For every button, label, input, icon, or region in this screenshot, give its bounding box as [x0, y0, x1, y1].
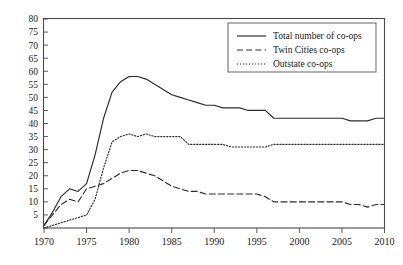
y-tick-label-60: 60 [29, 67, 39, 77]
y-tick-label-65: 65 [29, 54, 39, 64]
x-tick-label-1970: 1970 [34, 236, 54, 247]
y-tick-label-55: 55 [29, 80, 39, 90]
chart-figure: 5101520253035404550556065707580 19701975… [0, 0, 403, 265]
x-axis-tick-labels: 197019751980198519901995200020052010 [34, 236, 395, 247]
x-tick-label-1985: 1985 [162, 236, 182, 247]
y-tick-label-50: 50 [29, 93, 39, 103]
y-tick-label-15: 15 [29, 184, 39, 194]
y-tick-label-25: 25 [29, 158, 39, 168]
y-tick-label-70: 70 [29, 41, 39, 51]
y-tick-label-80: 80 [29, 14, 39, 24]
y-tick-label-30: 30 [29, 145, 39, 155]
y-tick-label-35: 35 [29, 132, 39, 142]
x-tick-label-2010: 2010 [375, 236, 395, 247]
x-tick-label-1975: 1975 [77, 236, 97, 247]
legend-label-1: Twin Cities co-ops [273, 45, 345, 55]
legend-label-2: Outstate co-ops [273, 59, 333, 69]
x-tick-label-1980: 1980 [119, 236, 139, 247]
line-chart: 5101520253035404550556065707580 19701975… [0, 0, 403, 265]
x-tick-label-2000: 2000 [289, 236, 309, 247]
y-tick-label-5: 5 [33, 210, 38, 220]
legend-label-0: Total number of co-ops [273, 31, 362, 41]
y-tick-label-75: 75 [29, 27, 39, 37]
chart-legend: Total number of co-opsTwin Cities co-ops… [228, 23, 376, 72]
x-tick-label-1990: 1990 [204, 236, 224, 247]
y-tick-label-40: 40 [29, 119, 39, 129]
y-tick-label-45: 45 [29, 106, 39, 116]
y-tick-label-20: 20 [29, 171, 39, 181]
y-tick-label-10: 10 [29, 197, 39, 207]
x-tick-label-1995: 1995 [247, 236, 267, 247]
x-tick-label-2005: 2005 [332, 236, 352, 247]
